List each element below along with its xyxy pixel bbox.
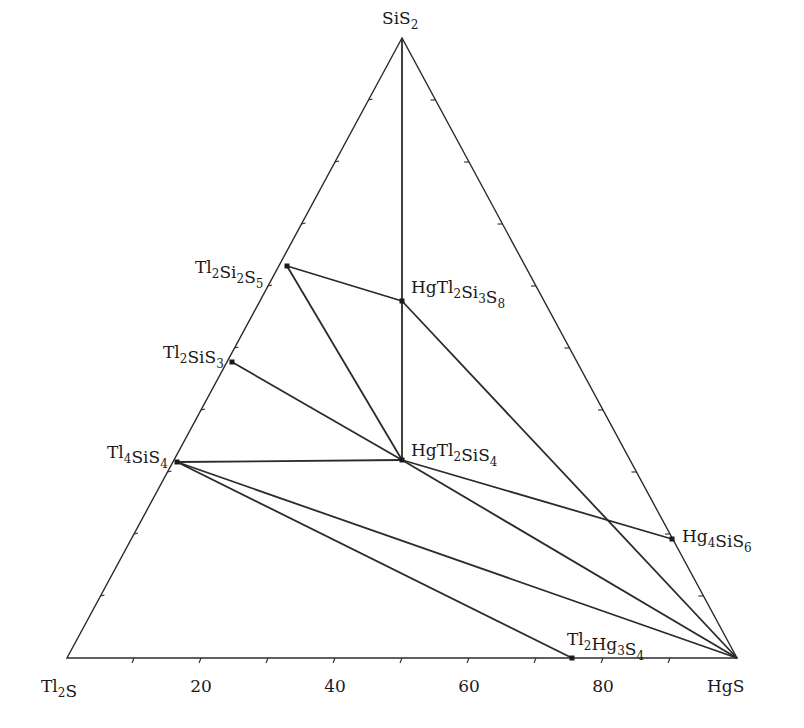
label-Hg4SiS6: Hg4SiS6 bbox=[682, 526, 752, 555]
tick-mark bbox=[199, 658, 201, 663]
tick-mark bbox=[266, 658, 268, 663]
vertex-label-HgS: HgS bbox=[707, 676, 744, 696]
compound-labels: Tl2Si2S5HgTl2Si3S8Tl2SiS3Tl4SiS4HgTl2SiS… bbox=[107, 257, 752, 663]
tick-mark bbox=[467, 658, 469, 663]
tie-line-Tl4SiS4-Tl2Hg3S4 bbox=[177, 462, 572, 658]
point-HgTl2SiS4 bbox=[400, 458, 405, 463]
label-Tl4SiS4: Tl4SiS4 bbox=[107, 442, 168, 471]
tie-line-Tl4SiS4-HgS bbox=[177, 462, 737, 658]
vertex-labels: SiS2Tl2SHgS bbox=[41, 8, 744, 701]
label-Tl2Si2S5: Tl2Si2S5 bbox=[195, 257, 263, 291]
tick-mark bbox=[333, 658, 335, 663]
axis-tick-label-20: 20 bbox=[190, 676, 212, 696]
tie-line-Tl4SiS4-HgTl2SiS4 bbox=[177, 460, 402, 462]
tick-mark bbox=[601, 658, 603, 663]
vertex-label-SiS2: SiS2 bbox=[382, 8, 418, 32]
label-HgTl2SiS4: HgTl2SiS4 bbox=[411, 440, 498, 469]
point-Tl2Si2S5 bbox=[285, 264, 290, 269]
tie-lines bbox=[177, 38, 737, 658]
label-Tl2SiS3: Tl2SiS3 bbox=[163, 342, 224, 371]
tie-line-Tl2SiS3-HgTl2SiS4 bbox=[232, 362, 402, 460]
point-Tl2Hg3S4 bbox=[570, 656, 575, 661]
axis-tick-label-60: 60 bbox=[458, 676, 480, 696]
point-HgTl2Si3S8 bbox=[400, 299, 405, 304]
tick-mark bbox=[668, 658, 670, 663]
point-Tl2SiS3 bbox=[230, 360, 235, 365]
tick-mark bbox=[400, 658, 402, 663]
point-Hg4SiS6 bbox=[670, 537, 675, 542]
tie-line-HgTl2Si3S8-HgS bbox=[402, 301, 737, 658]
axis-tick-label-40: 40 bbox=[324, 676, 346, 696]
tick-mark bbox=[132, 658, 134, 663]
tick-mark bbox=[534, 658, 536, 663]
bottom-axis-labels: 20406080 bbox=[190, 676, 614, 696]
ternary-phase-diagram: Tl2Si2S5HgTl2Si3S8Tl2SiS3Tl4SiS4HgTl2SiS… bbox=[0, 0, 804, 728]
label-HgTl2Si3S8: HgTl2Si3S8 bbox=[411, 277, 505, 311]
vertex-label-Tl2S: Tl2S bbox=[41, 676, 77, 701]
axis-tick-label-80: 80 bbox=[592, 676, 614, 696]
point-Tl4SiS4 bbox=[175, 460, 180, 465]
